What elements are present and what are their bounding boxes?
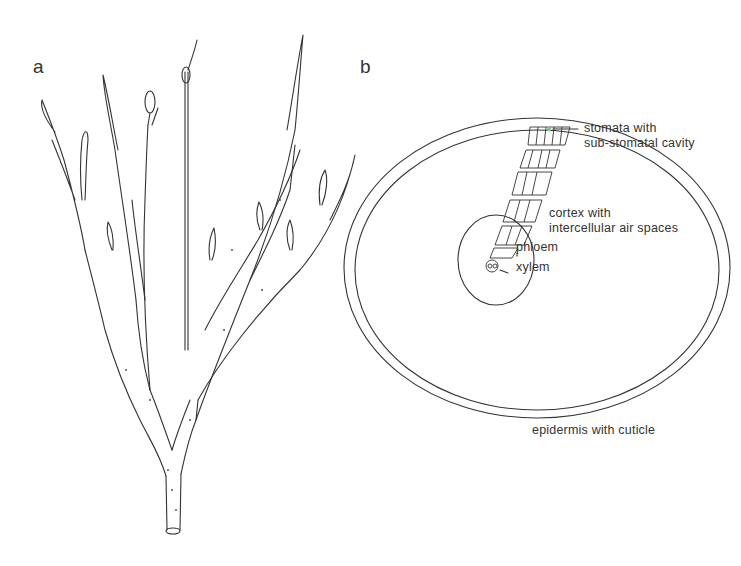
plant-shoot-drawing xyxy=(42,35,355,534)
label-phloem: phloem xyxy=(516,240,558,255)
figure-drawing xyxy=(0,0,741,566)
label-xylem: xylem xyxy=(516,260,550,275)
stomata-highlight xyxy=(547,127,551,131)
label-epidermis: epidermis with cuticle xyxy=(532,423,655,438)
label-stomata: stomata with sub-stomatal cavity xyxy=(584,121,695,151)
label-cortex: cortex with intercellular air spaces xyxy=(549,206,678,236)
